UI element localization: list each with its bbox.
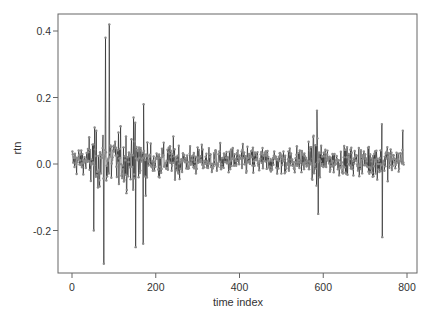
data-point <box>402 130 404 132</box>
data-point <box>237 149 239 151</box>
data-point <box>285 167 287 169</box>
data-point <box>397 152 399 154</box>
data-point <box>312 134 314 136</box>
data-point <box>384 165 386 167</box>
data-point <box>128 151 130 153</box>
data-point <box>318 158 320 160</box>
data-point <box>233 153 235 155</box>
data-point <box>215 151 217 153</box>
data-point <box>118 183 120 185</box>
data-point <box>278 160 280 162</box>
data-point <box>372 175 374 177</box>
data-point <box>339 166 341 168</box>
data-point <box>111 159 113 161</box>
x-tick-label: 0 <box>69 281 75 293</box>
data-point <box>227 171 229 173</box>
data-point <box>314 163 316 165</box>
data-point <box>348 156 350 158</box>
data-point <box>298 167 300 169</box>
data-point <box>134 122 136 124</box>
data-point <box>156 157 158 159</box>
data-point <box>291 158 293 160</box>
data-point <box>349 164 351 166</box>
data-point <box>313 172 315 174</box>
data-point <box>281 164 283 166</box>
data-point <box>242 157 244 159</box>
data-point <box>117 131 119 133</box>
data-point <box>288 170 290 172</box>
data-point <box>144 159 146 161</box>
data-point <box>278 156 280 158</box>
data-point <box>159 157 161 159</box>
data-point <box>287 150 289 152</box>
data-point <box>71 150 73 152</box>
data-point <box>256 155 258 157</box>
data-point <box>204 156 206 158</box>
data-point <box>144 175 146 177</box>
data-point <box>170 150 172 152</box>
data-point <box>319 176 321 178</box>
data-point <box>72 161 74 163</box>
data-point <box>373 165 375 167</box>
data-point <box>258 169 260 171</box>
x-tick-label: 600 <box>314 281 332 293</box>
data-point <box>146 141 148 143</box>
data-point <box>173 155 175 157</box>
data-point <box>146 176 148 178</box>
data-point <box>218 150 220 152</box>
data-point <box>248 160 250 162</box>
data-point <box>159 165 161 167</box>
data-point <box>129 166 131 168</box>
data-point <box>137 150 139 152</box>
data-point <box>176 159 178 161</box>
data-point <box>222 157 224 159</box>
data-point <box>310 163 312 165</box>
data-point <box>191 159 193 161</box>
data-point <box>316 110 318 112</box>
data-point <box>370 157 372 159</box>
data-point <box>74 152 76 154</box>
data-point <box>143 150 145 152</box>
data-point <box>163 141 165 143</box>
data-point <box>195 172 197 174</box>
data-point <box>110 146 112 148</box>
data-point <box>316 137 318 139</box>
data-point <box>82 173 84 175</box>
data-point <box>385 157 387 159</box>
data-point <box>149 154 151 156</box>
data-point <box>134 246 136 248</box>
data-point <box>177 172 179 174</box>
data-point <box>157 168 159 170</box>
data-point <box>92 161 94 163</box>
data-point <box>296 145 298 147</box>
data-point <box>89 149 91 151</box>
data-point <box>194 164 196 166</box>
data-point <box>132 116 134 118</box>
data-point <box>201 164 203 166</box>
data-point <box>119 125 121 127</box>
data-point <box>211 171 213 173</box>
data-point <box>224 154 226 156</box>
data-point <box>125 135 127 137</box>
data-point <box>397 158 399 160</box>
data-point <box>236 160 238 162</box>
data-point <box>208 162 210 164</box>
data-point <box>343 166 345 168</box>
data-point <box>356 154 358 156</box>
data-point <box>199 155 201 157</box>
data-point <box>260 162 262 164</box>
data-point <box>320 160 322 162</box>
data-point <box>276 172 278 174</box>
data-point <box>338 159 340 161</box>
data-point <box>198 149 200 151</box>
data-point <box>106 175 108 177</box>
data-point <box>242 143 244 145</box>
data-point <box>272 157 274 159</box>
data-point <box>370 167 372 169</box>
data-point <box>386 146 388 148</box>
data-point <box>326 153 328 155</box>
data-point <box>266 168 268 170</box>
data-point <box>220 168 222 170</box>
data-point <box>127 161 129 163</box>
data-point <box>268 160 270 162</box>
